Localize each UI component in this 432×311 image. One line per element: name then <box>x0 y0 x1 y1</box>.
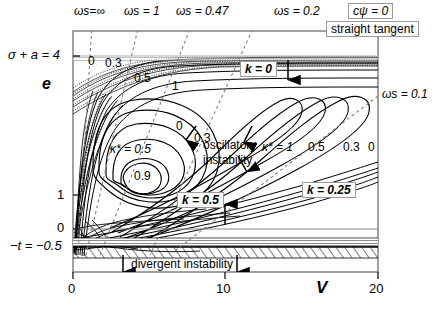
label-c-psi-zero: cψ = 0 <box>348 3 393 19</box>
label-omega-s-1: ωs = 1 <box>124 5 160 17</box>
xtick-label-20: 20 <box>369 282 383 295</box>
figure-stability-diagram: ωs=∞ ωs = 1 ωs = 0.47 ωs = 0.2 ωs = 0.1 … <box>0 0 432 311</box>
annotation-oscillatory-instability-line2: instability <box>203 154 252 166</box>
label-omega-s-01: ωs = 0.1 <box>382 88 428 100</box>
stipple-band-divergent-boundary <box>73 238 378 246</box>
label-k-equals-025: k = 0.25 <box>302 182 356 198</box>
ytick-label-minus-t: −t = −0.5 <box>10 239 62 252</box>
label-k-equals-0: k = 0 <box>240 61 277 77</box>
ytick-label-sigma-a-4: σ + a = 4 <box>8 48 60 61</box>
label-contour-kappa-1: κ* = 1 <box>262 141 293 153</box>
xtick-label-10: 10 <box>216 282 230 295</box>
ray-omega-s-01 <box>176 96 378 250</box>
annotation-divergent-instability: divergent instability <box>131 258 233 270</box>
ytick-label-1: 1 <box>57 188 64 201</box>
label-omega-s-047: ωs = 0.47 <box>176 5 228 17</box>
y-axis-title: e <box>42 76 51 92</box>
x-axis-title: V <box>316 279 327 296</box>
label-contour-03-topleft: 0.3 <box>105 57 122 69</box>
label-contour-0-center: 0 <box>176 120 183 132</box>
label-omega-s-02: ωs = 0.2 <box>274 5 320 17</box>
label-contour-05-top: 0.5 <box>134 72 151 84</box>
label-omega-s-infinity: ωs=∞ <box>74 5 105 17</box>
annotation-oscillatory-instability-line1: oscillatory <box>203 139 256 151</box>
xtick-label-0: 0 <box>68 282 75 295</box>
label-contour-0-right: 0 <box>368 141 375 153</box>
label-contour-03-right: 0.3 <box>343 141 360 153</box>
label-contour-0-topleft: 0 <box>88 55 95 67</box>
label-contour-1-top: 1 <box>172 80 179 92</box>
label-contour-05-right: 0.5 <box>308 141 325 153</box>
label-k-equals-05: k = 0.5 <box>177 192 224 208</box>
label-contour-kappa-05: κ* = 0.5 <box>110 143 151 155</box>
label-contour-09: 0.9 <box>134 170 151 182</box>
label-straight-tangent: straight tangent <box>326 21 419 37</box>
ytick-label-0: 0 <box>57 221 64 234</box>
